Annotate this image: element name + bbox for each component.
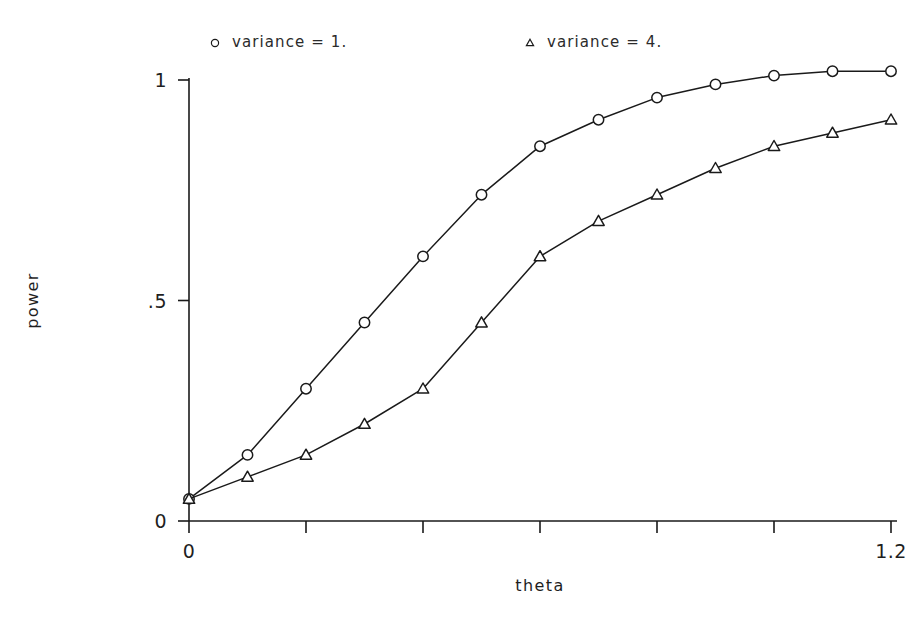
data-point-circle <box>827 66 837 76</box>
data-point-circle <box>476 190 486 200</box>
x-axis-ticks: 01.2 <box>183 521 907 562</box>
x-tick-label: 0 <box>183 540 196 562</box>
series-line <box>189 71 891 499</box>
data-point-circle <box>535 141 545 151</box>
data-point-triangle <box>359 418 370 428</box>
data-point-circle <box>301 384 311 394</box>
y-tick-label: 1 <box>154 69 167 91</box>
data-point-circle <box>769 70 779 80</box>
data-point-circle <box>710 79 720 89</box>
data-point-circle <box>242 450 252 460</box>
data-point-circle <box>886 66 896 76</box>
data-point-circle <box>593 115 603 125</box>
series-line <box>189 120 891 499</box>
data-point-triangle <box>300 449 311 459</box>
chart-figure: variance = 1. variance = 4. 0.5101.2thet… <box>0 0 916 617</box>
y-axis-title: power <box>23 272 42 328</box>
x-tick-label: 1.2 <box>875 540 907 562</box>
data-point-circle <box>418 251 428 261</box>
data-point-circle <box>652 92 662 102</box>
data-point-circle <box>359 317 369 327</box>
x-axis-title: theta <box>515 576 564 595</box>
data-point-triangle <box>593 215 604 225</box>
y-axis-ticks: 0.51 <box>148 69 189 532</box>
data-point-triangle <box>885 114 896 124</box>
data-point-triangle <box>651 189 662 199</box>
y-tick-label: .5 <box>148 290 167 312</box>
chart-plot-area: 0.5101.2thetapower <box>0 0 916 617</box>
y-tick-label: 0 <box>154 510 167 532</box>
series-2 <box>183 114 896 503</box>
series-1 <box>184 66 896 504</box>
data-point-triangle <box>534 251 545 261</box>
